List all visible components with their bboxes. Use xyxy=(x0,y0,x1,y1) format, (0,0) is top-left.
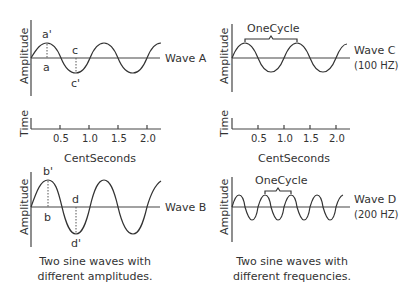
wave-c-brace-label: OneCycle xyxy=(247,22,300,35)
tick-label: 0.5 xyxy=(251,133,267,144)
tick-label: 1.0 xyxy=(277,133,293,144)
onecycle-brace-d xyxy=(265,188,291,194)
tick-label: 1.5 xyxy=(111,133,127,144)
wave-c-frequency: (100 HZ) xyxy=(354,60,399,71)
caption-left-line1: Two sine waves with xyxy=(38,255,151,268)
wave-d-panel: OneCycle Wave D (200 HZ) Amplitude xyxy=(218,174,399,242)
wave-b-name: Wave B xyxy=(165,201,206,214)
sine-wave-diagram: a' a c c' Wave A Amplitude OneCycle Wave… xyxy=(0,0,409,302)
wave-c-name: Wave C xyxy=(354,44,396,57)
wave-d-brace-label: OneCycle xyxy=(255,174,308,187)
label-a-prime: a' xyxy=(42,28,52,41)
label-a: a xyxy=(43,61,50,74)
wave-c-panel: OneCycle Wave C (100 HZ) Amplitude xyxy=(218,22,399,92)
time-axis-right: 0.5 1.0 1.5 2.0 CentSeconds Time xyxy=(218,110,350,165)
time-axis-left: 0.5 1.0 1.5 2.0 CentSeconds Time xyxy=(18,110,161,165)
wave-d-name: Wave D xyxy=(354,193,396,206)
tick-label: 2.0 xyxy=(329,133,345,144)
wave-d-y-label: Amplitude xyxy=(218,178,231,235)
time-left-x-label: CentSeconds xyxy=(64,152,136,165)
wave-a-y-label: Amplitude xyxy=(18,27,31,84)
wave-a-panel: a' a c c' Wave A Amplitude xyxy=(18,20,207,96)
tick-label: 1.0 xyxy=(82,133,98,144)
label-d: d xyxy=(72,193,79,206)
label-b-prime: b' xyxy=(43,165,53,178)
tick-label: 0.5 xyxy=(53,133,69,144)
caption-left-line2: different amplitudes. xyxy=(37,270,152,283)
caption-right-line2: different frequencies. xyxy=(233,270,351,283)
wave-b-panel: b' b d d' Wave B Amplitude xyxy=(18,165,206,250)
time-right-x-label: CentSeconds xyxy=(258,152,330,165)
wave-a-name: Wave A xyxy=(165,52,207,65)
caption-right-line1: Two sine waves with xyxy=(235,255,348,268)
tick-label: 1.5 xyxy=(303,133,319,144)
label-c: c xyxy=(72,44,78,57)
onecycle-brace-c xyxy=(245,36,297,42)
label-b: b xyxy=(44,211,51,224)
tick-label: 2.0 xyxy=(140,133,156,144)
wave-b-y-label: Amplitude xyxy=(18,178,31,235)
wave-c-y-label: Amplitude xyxy=(218,27,231,84)
time-right-y-label: Time xyxy=(218,110,231,138)
label-d-prime: d' xyxy=(71,237,81,250)
time-left-y-label: Time xyxy=(18,110,31,138)
wave-d-frequency: (200 HZ) xyxy=(354,209,399,220)
label-c-prime: c' xyxy=(71,77,80,90)
